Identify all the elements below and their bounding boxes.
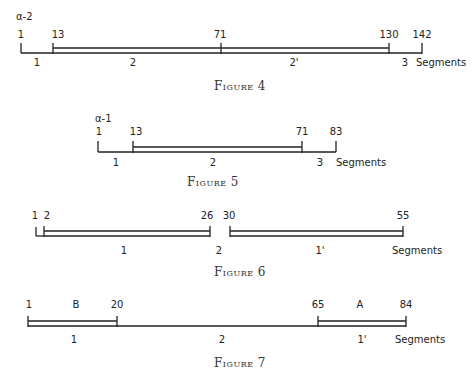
figure-caption: Figure 4 xyxy=(214,79,266,93)
position-label: 30 xyxy=(223,211,236,221)
segment-label: 2 xyxy=(210,158,216,168)
region-label-b: B xyxy=(73,300,80,310)
position-label: 83 xyxy=(330,127,343,137)
figure-caption: Figure 7 xyxy=(214,356,266,370)
segments-word: Segments xyxy=(392,246,442,256)
position-label: 71 xyxy=(296,127,309,137)
position-label: 142 xyxy=(412,30,431,40)
figure-caption: Figure 6 xyxy=(214,265,266,279)
region-label-a: A xyxy=(357,300,364,310)
segment-label: 2' xyxy=(289,58,298,68)
position-label: 55 xyxy=(397,211,410,221)
segment-label: 1 xyxy=(113,158,119,168)
segment-diagrams: α-2 1 13 71 130 142 1 2 2' 3 Segments Fi… xyxy=(0,0,472,382)
figure-5-line xyxy=(98,141,336,153)
segment-label: 1 xyxy=(121,246,127,256)
segments-word: Segments xyxy=(336,158,386,168)
segment-label: 3 xyxy=(317,158,323,168)
position-label: 1 xyxy=(96,127,102,137)
segment-label: 1' xyxy=(357,335,366,345)
segments-word: Segments xyxy=(395,335,445,345)
figure-7-line xyxy=(28,316,406,327)
position-label: 20 xyxy=(111,300,124,310)
segments-word: Segments xyxy=(416,58,466,68)
position-label: 1 xyxy=(32,211,38,221)
position-label: 130 xyxy=(379,30,398,40)
position-label: 1 xyxy=(18,30,24,40)
segment-label: 2 xyxy=(216,246,222,256)
figure-4-line xyxy=(21,43,422,54)
position-label: 13 xyxy=(52,30,65,40)
position-label: 26 xyxy=(201,211,214,221)
segment-label: 1 xyxy=(71,335,77,345)
position-label: 1 xyxy=(26,300,32,310)
position-label: 71 xyxy=(214,30,227,40)
segment-label: 1 xyxy=(34,58,40,68)
position-label: 2 xyxy=(44,211,50,221)
segment-label: 1' xyxy=(315,246,324,256)
segment-label: 2 xyxy=(219,335,225,345)
chain-label: α-2 xyxy=(16,12,33,22)
figure-6-line xyxy=(36,226,403,237)
position-label: 13 xyxy=(130,127,143,137)
chain-label: α-1 xyxy=(95,114,112,124)
segment-label: 2 xyxy=(130,58,136,68)
segment-label: 3 xyxy=(402,58,408,68)
position-label: 65 xyxy=(312,300,325,310)
figure-caption: Figure 5 xyxy=(187,175,239,189)
position-label: 84 xyxy=(400,300,413,310)
